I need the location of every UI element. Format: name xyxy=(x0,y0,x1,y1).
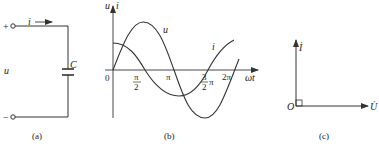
plus-terminal xyxy=(11,24,15,28)
svg-text:π: π xyxy=(209,77,214,87)
svg-text:2: 2 xyxy=(134,82,139,92)
tick-pi-over-2: π 2 xyxy=(133,72,141,92)
voltage-label: u xyxy=(4,65,9,76)
panel-b-caption: (b) xyxy=(164,131,175,141)
phasor-i-label: İ xyxy=(298,42,303,53)
panel-b-waveforms: u i ωt 0 π 2 π 3 2 π 2π u i (b) xyxy=(105,0,258,141)
y-axis-label-i: i xyxy=(116,0,119,11)
svg-text:3: 3 xyxy=(202,72,207,82)
panel-a-caption: (a) xyxy=(32,131,42,141)
tick-2pi: 2π xyxy=(222,72,232,82)
current-label: i xyxy=(28,16,31,27)
panel-a-circuit: + − i u C (a) xyxy=(3,16,77,141)
y-axis-label-u: u xyxy=(105,0,110,11)
curve-u-label: u xyxy=(163,24,168,35)
curve-i-label: i xyxy=(212,41,215,52)
right-angle-icon xyxy=(296,100,302,106)
panel-c-caption: (c) xyxy=(319,131,329,141)
plus-sign: + xyxy=(3,21,9,32)
phasor-origin-label: O xyxy=(287,101,294,112)
phasor-u-label: U̇ xyxy=(370,101,378,112)
tick-3pi-over-2: 3 2 π xyxy=(201,72,214,92)
origin-label: 0 xyxy=(105,73,110,83)
capacitor-label: C xyxy=(70,59,77,70)
x-axis-label: ωt xyxy=(245,72,255,83)
svg-text:2: 2 xyxy=(202,82,207,92)
minus-sign: − xyxy=(3,112,9,123)
panel-c-phasor: O İ U̇ (c) xyxy=(287,40,378,141)
svg-text:π: π xyxy=(134,72,139,82)
tick-pi: π xyxy=(166,72,171,82)
minus-terminal xyxy=(11,115,15,119)
capacitor-ac-circuit-figure: + − i u C (a) u i ωt 0 π 2 π 3 2 π xyxy=(0,0,379,148)
